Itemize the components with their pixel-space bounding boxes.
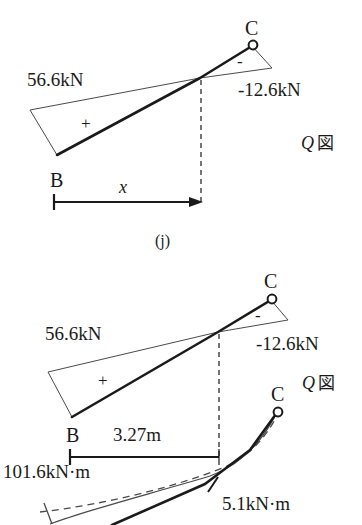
negative-shear-value-label: -12.6kN	[238, 80, 301, 99]
support-c-marker-3	[274, 408, 283, 417]
negative-sign-label-2: -	[255, 307, 261, 324]
end-moment-value-label: 5.1kN·m	[222, 494, 290, 513]
moment-tick-2	[44, 503, 52, 524]
max-moment-value-label: 101.6kN·m	[3, 462, 90, 481]
q-diagram-label: Q図	[301, 134, 334, 152]
support-b-label: B	[50, 170, 63, 190]
q-diagram-symbol-2: Q	[302, 373, 315, 393]
figure-caption: (j)	[155, 233, 170, 249]
q-diagram-kanji-2: 図	[318, 373, 335, 393]
support-c-marker-2	[268, 295, 277, 304]
support-b-label-2: B	[66, 425, 79, 445]
q-diagram-kanji: 図	[317, 133, 334, 153]
positive-shear-area-2	[48, 332, 218, 417]
negative-shear-area	[200, 46, 272, 78]
q-diagram-symbol: Q	[301, 133, 314, 153]
shear-line-2	[72, 300, 271, 417]
shear-line	[57, 46, 252, 155]
dimension-x-label: x	[119, 178, 127, 196]
positive-sign-label-2: +	[98, 372, 108, 389]
bottom-diagram-group: 56.6kN -12.6kN + - B C 3.27m Q図 C 101.6k…	[0, 262, 362, 525]
support-c-marker	[249, 41, 258, 50]
negative-shear-value-label-2: -12.6kN	[256, 334, 319, 353]
support-c-label-3: C	[271, 384, 284, 404]
top-shear-diagram-graphic	[0, 0, 362, 262]
q-diagram-label-2: Q図	[302, 374, 335, 392]
dimension-327m-label: 3.27m	[113, 425, 161, 444]
bottom-diagram-graphic	[0, 262, 362, 525]
positive-shear-value-label: 56.6kN	[27, 70, 83, 89]
positive-sign-label: +	[81, 115, 91, 132]
support-c-label: C	[245, 18, 258, 38]
negative-shear-area-2	[218, 300, 288, 332]
positive-shear-value-label-2: 56.6kN	[45, 324, 101, 343]
figure-page: 56.6kN -12.6kN + - B C x Q図 (j)	[0, 0, 362, 525]
negative-sign-label: -	[237, 53, 243, 70]
top-shear-diagram: 56.6kN -12.6kN + - B C x Q図 (j)	[0, 0, 362, 262]
support-c-label-2: C	[264, 271, 277, 291]
